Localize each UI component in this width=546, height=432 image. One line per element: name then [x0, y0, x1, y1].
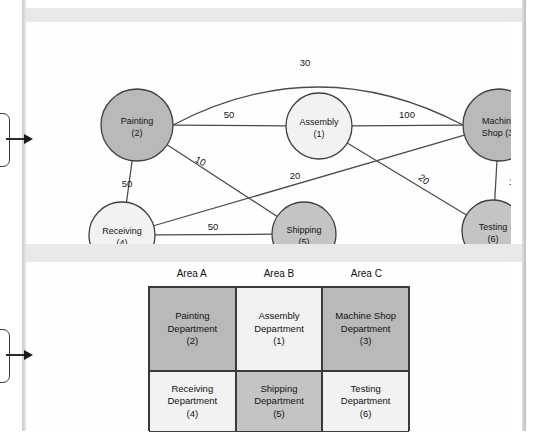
area-header-a: Area A	[148, 264, 235, 284]
node-label-name: Testing	[479, 222, 508, 232]
node-label-name: Receiving	[102, 226, 142, 236]
node-label-name: Assembly	[299, 117, 339, 127]
frame-right-rail	[522, 0, 526, 431]
flow-graph: Painting(2)Assembly(1)MachineShop (3)Rec…	[33, 22, 511, 244]
department-cell[interactable]: AssemblyDepartment(1)	[236, 287, 323, 371]
graph-edge	[173, 125, 286, 126]
graph-edge	[352, 125, 463, 126]
department-cell-line: (3)	[360, 335, 372, 348]
panel-divider	[26, 244, 522, 262]
frame-top-bar	[22, 8, 526, 22]
edge-weight-label: 30	[300, 57, 311, 68]
edge-weight-label: 20	[290, 170, 301, 181]
node-label-name: Painting	[121, 116, 154, 126]
node-label-number: (4)	[117, 238, 128, 244]
department-cell-line: (4)	[187, 408, 199, 421]
arrow-right-icon	[24, 134, 33, 144]
area-header-c: Area C	[323, 264, 410, 284]
graph-edge	[495, 161, 497, 200]
connector-line	[6, 138, 26, 140]
department-cell-line: Shipping	[261, 383, 298, 396]
department-cell-line: Department	[254, 395, 304, 408]
department-cell[interactable]: ShippingDepartment(5)	[236, 371, 323, 432]
edge-weight-label: 10	[193, 154, 207, 169]
node-label-name: Machine	[482, 116, 511, 126]
department-cell-line: (5)	[273, 408, 285, 421]
edge-weight-label: 50	[208, 221, 219, 232]
node-label-number: (2)	[132, 128, 143, 138]
area-header-b: Area B	[235, 264, 322, 284]
department-cell-line: Testing	[351, 383, 381, 396]
edge-weight-label: 50	[224, 109, 235, 120]
connector-box	[0, 113, 10, 167]
department-cell-line: Assembly	[258, 310, 299, 323]
department-cell[interactable]: PaintingDepartment(2)	[149, 287, 236, 371]
connector-box	[0, 329, 10, 383]
graph-edge	[347, 143, 466, 215]
department-cell-line: Department	[168, 395, 218, 408]
department-cell-line: Department	[341, 323, 391, 336]
department-cell-line: Painting	[175, 310, 209, 323]
node-label-name: Shipping	[286, 225, 321, 235]
arrow-right-icon	[24, 350, 33, 360]
edge-weight-label: 20	[417, 172, 432, 187]
graph-node[interactable]: Receiving(4)	[89, 202, 155, 244]
department-cell-line: Department	[254, 323, 304, 336]
graph-node[interactable]: Shipping(5)	[272, 202, 336, 244]
department-cell-line: (6)	[360, 408, 372, 421]
department-cell[interactable]: ReceivingDepartment(4)	[149, 371, 236, 432]
department-cell[interactable]: Machine ShopDepartment(3)	[322, 287, 409, 371]
department-cell-line: Department	[341, 395, 391, 408]
department-cell-line: Department	[168, 323, 218, 336]
graph-nodes: Painting(2)Assembly(1)MachineShop (3)Rec…	[89, 89, 511, 244]
department-cell-line: Receiving	[171, 383, 213, 396]
graph-node[interactable]: Painting(2)	[101, 89, 173, 161]
node-label-number: (1)	[314, 129, 325, 139]
graph-node[interactable]: Assembly(1)	[286, 93, 352, 159]
department-grid: PaintingDepartment(2)AssemblyDepartment(…	[148, 286, 410, 431]
edge-weight-label: 100	[509, 176, 511, 187]
graph-node[interactable]: Testing(6)	[462, 200, 511, 244]
area-column-headers: Area AArea BArea C	[148, 264, 410, 284]
department-cell[interactable]: TestingDepartment(6)	[322, 371, 409, 432]
department-cell-line: (1)	[273, 335, 285, 348]
graph-node[interactable]: MachineShop (3)	[463, 89, 511, 161]
node-label-number: (6)	[488, 234, 499, 244]
edge-weight-label: 50	[122, 178, 133, 189]
node-label-number: Shop (3)	[482, 128, 511, 138]
node-label-number: (5)	[299, 237, 310, 244]
connector-line	[6, 354, 26, 356]
frame-left-rail	[22, 0, 26, 431]
graph-edge	[155, 234, 272, 235]
edge-weight-label: 100	[399, 109, 415, 120]
department-cell-line: (2)	[187, 335, 199, 348]
department-cell-line: Machine Shop	[335, 310, 396, 323]
